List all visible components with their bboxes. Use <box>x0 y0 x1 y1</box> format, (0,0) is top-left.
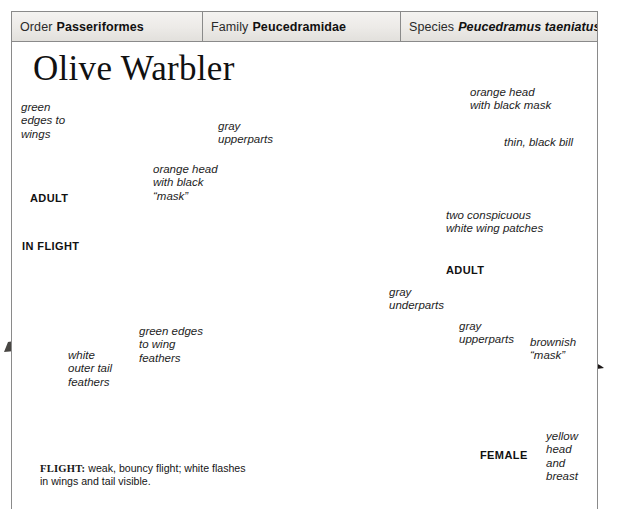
caption-female: FEMALE <box>480 449 528 461</box>
label-brownish-mask: brownish “mask” <box>530 336 576 363</box>
taxonomy-rank-order: Order <box>20 20 52 34</box>
label-gray-upperparts: gray upperparts <box>218 120 273 147</box>
taxonomy-cell-order: Order Passeriformes <box>12 12 202 41</box>
taxonomy-name-species: Peucedramus taeniatus <box>458 20 597 34</box>
label-green-edges-wing-feathers: green edges to wing feathers <box>139 325 203 365</box>
taxonomy-bar: Order Passeriformes Family Peucedramidae… <box>12 12 597 42</box>
label-gray-underparts: gray underparts <box>389 286 444 313</box>
label-orange-head-mask-adult: orange head with black mask <box>470 86 551 113</box>
taxonomy-cell-species: Species Peucedramus taeniatus <box>400 12 597 41</box>
flight-note: FLIGHT: weak, bouncy flight; white flash… <box>40 462 250 489</box>
page-title: Olive Warbler <box>33 48 235 90</box>
taxonomy-cell-family: Family Peucedramidae <box>202 12 400 41</box>
taxonomy-rank-species: Species <box>409 20 454 34</box>
label-green-edges-to-wings: green edges to wings <box>21 101 65 141</box>
taxonomy-rank-family: Family <box>211 20 248 34</box>
flight-note-label: FLIGHT: <box>40 463 85 474</box>
label-white-outer-tail-feathers: white outer tail feathers <box>68 349 112 389</box>
taxonomy-name-family: Peucedramidae <box>252 20 346 34</box>
label-thin-black-bill: thin, black bill <box>504 136 573 149</box>
label-gray-upperparts-female: gray upperparts <box>459 320 514 347</box>
label-yellow-head-and-breast: yellow head and breast <box>546 430 578 484</box>
label-orange-head-mask-flight: orange head with black “mask” <box>153 163 218 203</box>
caption-adult-perched: ADULT <box>446 264 484 276</box>
label-white-wing-patches: two conspicuous white wing patches <box>446 209 543 236</box>
taxonomy-name-order: Passeriformes <box>56 20 143 34</box>
caption-in-flight: IN FLIGHT <box>22 240 79 252</box>
caption-adult-flight: ADULT <box>30 192 68 204</box>
